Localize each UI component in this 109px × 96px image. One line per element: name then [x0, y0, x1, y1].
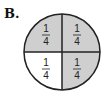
numerator: 1: [74, 57, 80, 68]
numerator: 1: [43, 23, 49, 34]
fraction-circle: 1 4 1 4 1 4 1 4: [0, 0, 109, 96]
denominator: 4: [74, 70, 80, 81]
denominator: 4: [43, 36, 49, 47]
numerator: 1: [74, 23, 80, 34]
denominator: 4: [43, 70, 49, 81]
numerator: 1: [43, 57, 49, 68]
denominator: 4: [74, 36, 80, 47]
